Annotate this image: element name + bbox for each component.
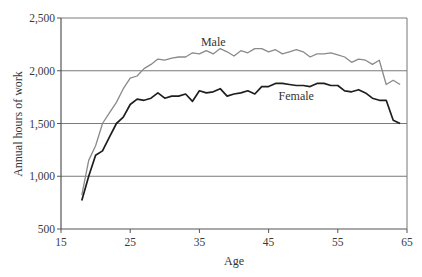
series-label-male: Male <box>201 35 226 49</box>
x-tick-label: 15 <box>55 236 67 248</box>
x-axis-ticks: 152535455565 <box>55 229 413 248</box>
y-axis-ticks: 5001,0001,5002,0002,500 <box>29 12 61 235</box>
series-labels: MaleFemale <box>201 35 314 103</box>
x-tick-label: 55 <box>332 236 344 248</box>
x-tick-label: 65 <box>401 236 413 248</box>
y-axis-title: Annual hours of work <box>11 71 25 177</box>
y-tick-label: 2,000 <box>29 65 55 78</box>
series-line-female <box>82 83 400 200</box>
line-chart: 152535455565 5001,0001,5002,0002,500 Mal… <box>0 0 422 277</box>
x-tick-label: 45 <box>263 236 275 248</box>
y-tick-label: 2,500 <box>29 12 55 25</box>
y-tick-label: 500 <box>38 223 56 235</box>
y-tick-label: 1,000 <box>29 170 55 183</box>
x-tick-label: 35 <box>194 236 206 248</box>
x-axis-title: Age <box>224 254 244 268</box>
grid-lines <box>61 18 407 176</box>
data-series <box>82 49 400 201</box>
series-label-female: Female <box>279 89 314 103</box>
y-tick-label: 1,500 <box>29 118 55 131</box>
x-tick-label: 25 <box>124 236 136 248</box>
